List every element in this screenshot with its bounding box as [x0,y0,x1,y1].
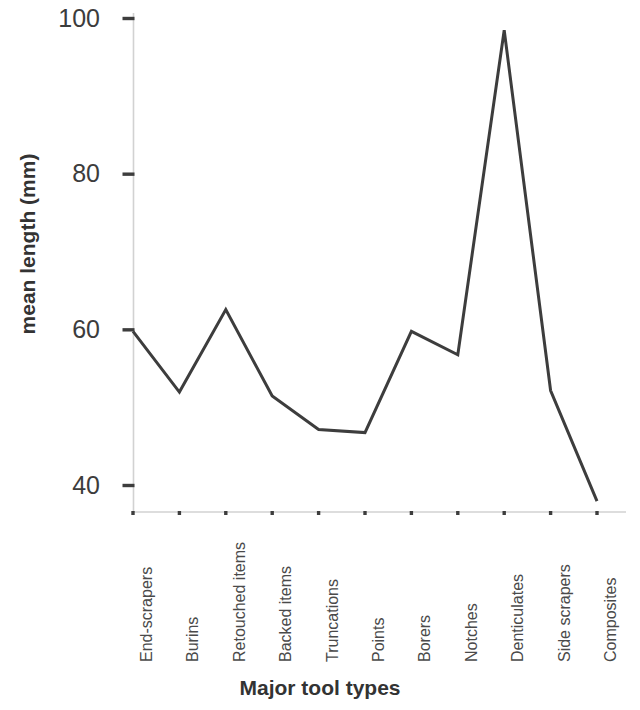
x-axis-tick-label: Backed items [278,566,294,662]
x-axis-tick-label: Burins [185,617,201,662]
x-axis-tick-label: End-scrapers [139,567,155,662]
x-axis-tick-label: Denticulates [510,574,526,662]
x-axis-tick-label: Truncations [325,579,341,662]
x-axis-tick-label: Side scrapers [557,564,573,662]
x-axis-title: Major tool types [0,676,640,700]
x-axis-tick-label: Composites [603,578,619,662]
x-axis-tick-label: Retouched items [232,542,248,662]
x-axis-tick-label: Points [371,618,387,662]
x-axis-tick-label: Notches [464,603,480,662]
x-axis-tick-label: Borers [417,615,433,662]
chart-figure: mean length (mm) 406080100 End-scrapersB… [0,0,640,710]
x-axis-tick-labels: End-scrapersBurinsRetouched itemsBacked … [0,0,640,710]
